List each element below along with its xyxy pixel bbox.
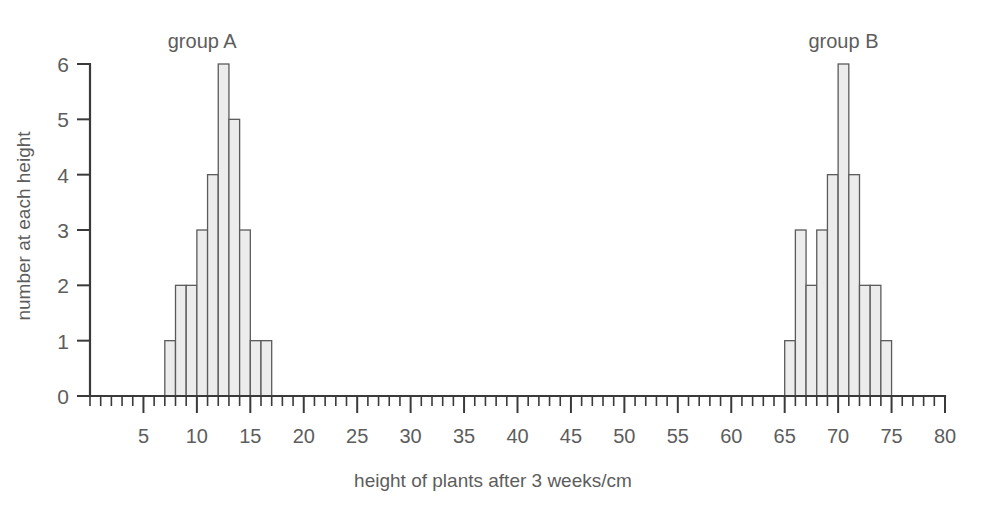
x-tick-label: 50	[613, 425, 635, 447]
histogram-bar	[218, 64, 229, 396]
x-tick-label: 80	[934, 425, 956, 447]
histogram-bar	[240, 230, 251, 396]
y-tick-label: 4	[57, 164, 69, 187]
y-tick-label: 3	[57, 219, 69, 242]
histogram-bar	[261, 341, 272, 396]
plant-height-histogram: 5101520253035404550556065707580 0123456 …	[0, 0, 987, 505]
histogram-bar	[785, 341, 796, 396]
histogram-bar	[827, 175, 838, 396]
y-tick-label: 5	[57, 108, 69, 131]
group-label-group-b: group B	[808, 30, 878, 52]
x-tick-label: 55	[667, 425, 689, 447]
histogram-bar	[250, 341, 261, 396]
histogram-bar	[849, 175, 860, 396]
y-axis-tick-labels: 0123456	[57, 53, 69, 408]
y-tick-label: 2	[57, 274, 69, 297]
histogram-bar	[870, 285, 881, 396]
histogram-bar	[838, 64, 849, 396]
x-tick-label: 65	[774, 425, 796, 447]
x-tick-label: 10	[186, 425, 208, 447]
y-tick-label: 6	[57, 53, 69, 76]
histogram-bar	[186, 285, 197, 396]
y-tick-label: 1	[57, 330, 69, 353]
histogram-bar	[176, 285, 187, 396]
x-tick-label: 5	[138, 425, 149, 447]
histogram-bar	[881, 341, 892, 396]
histogram-bar	[795, 230, 806, 396]
y-tick-label: 0	[57, 385, 69, 408]
x-tick-label: 30	[400, 425, 422, 447]
histogram-bar	[197, 230, 208, 396]
x-tick-label: 70	[827, 425, 849, 447]
x-tick-label: 40	[506, 425, 528, 447]
y-axis-ticks	[77, 64, 90, 396]
histogram-bar	[208, 175, 219, 396]
histogram-bar	[229, 119, 240, 396]
x-tick-label: 25	[346, 425, 368, 447]
histogram-bar	[165, 341, 176, 396]
x-tick-label: 75	[880, 425, 902, 447]
x-tick-label: 15	[239, 425, 261, 447]
y-axis-title: number at each height	[13, 131, 34, 321]
x-tick-label: 45	[560, 425, 582, 447]
group-label-group-a: group A	[168, 30, 238, 52]
x-tick-label: 35	[453, 425, 475, 447]
x-axis-ticks	[90, 396, 945, 413]
group-labels: group Agroup B	[168, 30, 879, 52]
x-axis-title: height of plants after 3 weeks/cm	[354, 470, 632, 491]
histogram-bar	[860, 285, 871, 396]
histogram-bar	[806, 285, 817, 396]
x-axis-tick-labels: 5101520253035404550556065707580	[138, 425, 956, 447]
histogram-figure: 5101520253035404550556065707580 0123456 …	[0, 0, 987, 505]
x-tick-label: 20	[293, 425, 315, 447]
bars-layer	[165, 64, 892, 396]
histogram-bar	[817, 230, 828, 396]
x-tick-label: 60	[720, 425, 742, 447]
